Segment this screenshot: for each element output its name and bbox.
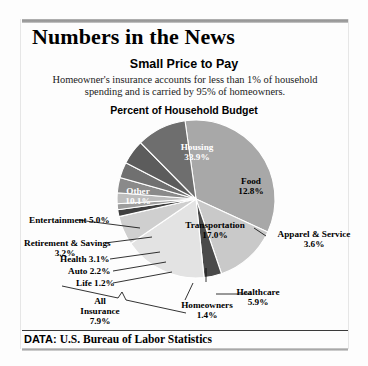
slice-label-transportation: Transportation17.0% [169,220,261,240]
slice-label-housing: Housing33.9% [158,142,236,162]
footer-bottom-rule [22,348,348,351]
footer-text: DATA: U.S. Bureau of Labor Statistics [22,331,348,347]
group-label-all-insurance: All Insurance 7.9% [72,296,128,327]
pie-chart: Housing33.9% Food12.8% Other10.1% Transp… [0,0,368,366]
slice-label-other: Other10.1% [114,186,162,206]
slice-label-apparel: Apparel & Service3.6% [268,229,360,249]
footer-source: DATA: U.S. Bureau of Labor Statistics [22,330,348,351]
slice-label-health: Health 3.1% [60,254,110,264]
slice-label-auto: Auto 2.2% [68,266,110,276]
slice-label-food: Food12.8% [228,176,274,196]
slice-label-entertainment: Entertainment 5.0% [29,215,110,225]
slice-label-homeowners: Homeowners1.4% [176,300,238,320]
footer-prefix: DATA: [24,333,57,345]
slice-label-life: Life 1.2% [76,278,115,288]
footer-source-name: U.S. Bureau of Labor Statistics [60,333,212,345]
news-graphic-page: Numbers in the News Small Price to Pay H… [0,0,368,366]
